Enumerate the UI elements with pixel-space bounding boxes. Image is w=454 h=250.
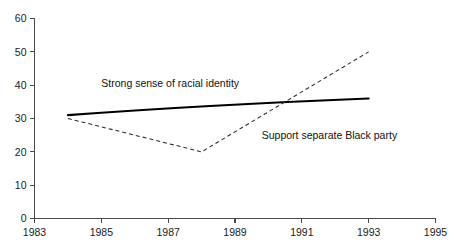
x-tick-label-1989: 1989 xyxy=(223,226,247,238)
y-tick-label-30: 30 xyxy=(15,112,27,124)
x-axis: 1983198519871989199119931995 xyxy=(23,219,448,238)
y-tick-label-60: 60 xyxy=(15,12,27,24)
x-tick-label-1983: 1983 xyxy=(23,226,47,238)
x-tick-label-1991: 1991 xyxy=(290,226,314,238)
series-label-support-separate-black-party: Support separate Black party xyxy=(262,129,398,141)
y-tick-label-40: 40 xyxy=(15,79,27,91)
series-line-strong-sense-of-racial-identity xyxy=(68,99,369,116)
y-tick-label-10: 10 xyxy=(15,179,27,191)
chart-container: 0102030405060 19831985198719891991199319… xyxy=(0,0,454,250)
y-tick-label-20: 20 xyxy=(15,146,27,158)
x-tick-label-1993: 1993 xyxy=(357,226,381,238)
x-tick-label-1985: 1985 xyxy=(90,226,114,238)
series-label-strong-sense-of-racial-identity: Strong sense of racial identity xyxy=(101,77,239,89)
y-tick-label-0: 0 xyxy=(21,212,27,224)
x-tick-label-1987: 1987 xyxy=(156,226,180,238)
line-chart: 0102030405060 19831985198719891991199319… xyxy=(0,0,454,250)
x-tick-label-1995: 1995 xyxy=(424,226,448,238)
y-tick-label-50: 50 xyxy=(15,46,27,58)
y-axis: 0102030405060 xyxy=(15,12,35,224)
